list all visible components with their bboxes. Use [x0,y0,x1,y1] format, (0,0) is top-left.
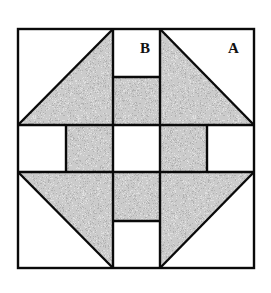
rect-middle-right [160,125,207,172]
quilt-block-diagram: B A [0,0,271,293]
block-background [18,29,254,268]
label-b: B [140,40,150,56]
rect-top-center [113,77,160,125]
label-a: A [228,40,239,56]
rect-middle-left [66,125,113,172]
rect-bottom-center [113,172,160,221]
